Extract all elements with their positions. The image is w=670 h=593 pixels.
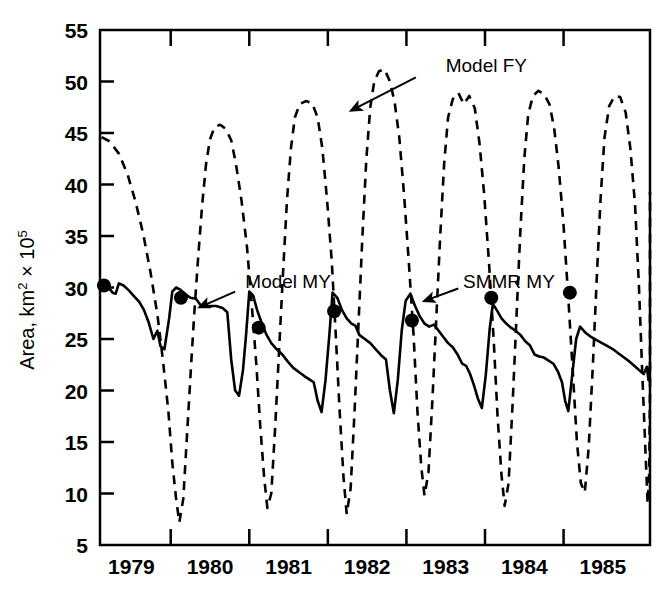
y-tick-label-5: 5: [76, 534, 88, 557]
x-tick-label-1984: 1984: [501, 555, 548, 578]
y-tick-label-45: 45: [65, 122, 89, 145]
x-tick-label-1981: 1981: [265, 555, 312, 578]
annotation-arrow-model-fy: [351, 77, 415, 110]
scatter-point-5: [405, 313, 419, 327]
scatter-point-4: [327, 304, 341, 318]
annotation-layer: Model FYModel MYSMMR MY: [200, 55, 555, 307]
y-tick-label-20: 20: [65, 380, 88, 403]
y-tick-label-50: 50: [65, 71, 88, 94]
svg-text:Area, km2 × 105: Area, km2 × 105: [15, 230, 38, 370]
y-axis-title-main: Area, km: [16, 290, 38, 370]
y-axis-title-sup-2: 2: [15, 283, 30, 290]
ice-area-time-series-chart: 510152025303540455055 197919801981198219…: [0, 0, 670, 593]
y-axis-title-mid: × 10: [16, 237, 38, 282]
annotation-arrow-model-my: [200, 292, 235, 307]
scatter-point-7: [563, 286, 577, 300]
scatter-point-6: [484, 291, 498, 305]
y-tick-label-40: 40: [65, 174, 88, 197]
chart-figure: 510152025303540455055 197919801981198219…: [0, 0, 670, 593]
x-tick-label-1979: 1979: [108, 555, 155, 578]
scatter-point-2: [174, 291, 188, 305]
x-tick-label-1982: 1982: [344, 555, 391, 578]
x-tick-label-1980: 1980: [187, 555, 234, 578]
y-tick-label-55: 55: [65, 19, 89, 42]
x-tick-label-1985: 1985: [579, 555, 626, 578]
annotation-arrow-smmr-my: [425, 289, 459, 301]
scatter-point-3: [252, 321, 266, 335]
y-tick-label-15: 15: [65, 431, 89, 454]
x-axis-tick-labels: 1979198019811982198319841985: [108, 555, 626, 578]
y-axis-tick-labels: 510152025303540455055: [65, 19, 89, 557]
annotation-label-model-my: Model MY: [245, 271, 331, 292]
scatter-point-1: [97, 278, 111, 292]
y-tick-label-30: 30: [65, 277, 88, 300]
y-axis-title-sup-5: 5: [15, 230, 30, 237]
y-tick-label-35: 35: [65, 225, 89, 248]
x-tick-label-1983: 1983: [422, 555, 469, 578]
y-axis-title: Area, km2 × 105: [15, 230, 38, 370]
y-tick-label-10: 10: [65, 483, 88, 506]
annotation-label-smmr-my: SMMR MY: [463, 271, 555, 292]
y-tick-label-25: 25: [65, 328, 89, 351]
annotation-label-model-fy: Model FY: [446, 55, 528, 76]
